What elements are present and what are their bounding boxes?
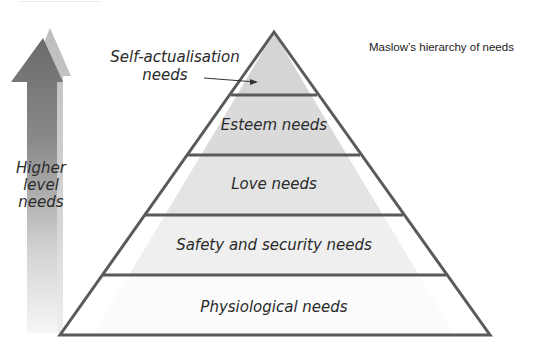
side-label-line: needs: [14, 194, 68, 211]
diagram-title: Maslow’s hierarchy of needs: [369, 41, 514, 53]
level-label-safety: Safety and security needs: [176, 236, 372, 254]
callout-line: needs: [80, 66, 250, 84]
callout-line: Self-actualisation: [100, 48, 250, 66]
higher-level-needs-label: Higher level needs: [14, 160, 68, 211]
level-label-physiological: Physiological needs: [200, 298, 347, 316]
side-label-line: level: [14, 177, 68, 194]
level-label-love: Love needs: [231, 175, 317, 193]
side-label-line: Higher: [14, 160, 68, 177]
cropped-top-caption: —————————: [20, 0, 101, 6]
level-label-esteem: Esteem needs: [221, 116, 327, 134]
self-actualisation-callout: Self-actualisation needs: [100, 48, 250, 84]
